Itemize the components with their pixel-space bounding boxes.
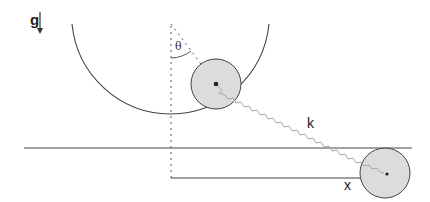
sliding-disk-center	[385, 172, 388, 175]
displacement-arrow	[171, 175, 385, 181]
gravity-label: g	[30, 12, 39, 27]
spring-constant-label: k	[307, 116, 314, 130]
displacement-label: x	[344, 178, 351, 192]
rolling-disk-center	[214, 82, 219, 87]
sliding-disk	[360, 148, 410, 198]
angle-label: θ	[175, 41, 182, 52]
wavy-spring	[218, 86, 384, 173]
physics-diagram: g θ k x	[0, 0, 430, 202]
diagram-graphics	[0, 0, 430, 202]
